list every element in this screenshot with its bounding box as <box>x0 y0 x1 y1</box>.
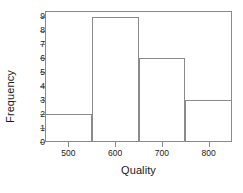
x-axis-title: Quality <box>45 164 232 176</box>
x-tick-mark <box>68 142 69 147</box>
histogram-figure: Frequency 0123456789 500600700800 Qualit… <box>0 0 243 193</box>
x-tick-label: 500 <box>51 149 85 158</box>
x-tick-label: 800 <box>192 149 226 158</box>
x-tick-label: 600 <box>98 149 132 158</box>
x-tick-mark <box>115 142 116 147</box>
x-tick-mark <box>162 142 163 147</box>
x-tick-label: 700 <box>145 149 179 158</box>
x-tick-mark <box>209 142 210 147</box>
